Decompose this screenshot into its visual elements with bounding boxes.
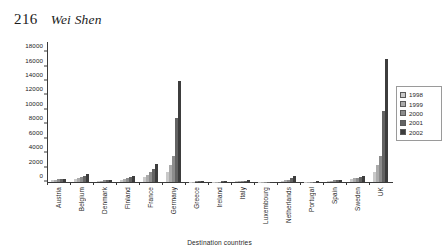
bar-clusters bbox=[47, 45, 392, 182]
bar-cluster bbox=[254, 45, 277, 182]
legend-swatch-icon bbox=[400, 110, 406, 116]
legend-item-2002[interactable]: 2002 bbox=[400, 128, 438, 137]
x-axis-label-slot: Austria bbox=[47, 185, 70, 243]
y-axis-tick-label: 16000 bbox=[25, 56, 47, 63]
legend-label: 2002 bbox=[409, 129, 423, 136]
x-axis-label-sweden: Sweden bbox=[354, 187, 361, 211]
bar-italy-2002[interactable] bbox=[247, 180, 250, 182]
bar-austria-2002[interactable] bbox=[63, 179, 66, 182]
plot-area: 0200040006000800010000120001400016000180… bbox=[47, 45, 392, 182]
bar-cluster bbox=[300, 45, 323, 182]
x-axis-label-finland: Finland bbox=[124, 187, 131, 209]
legend-swatch-icon bbox=[400, 92, 406, 98]
y-axis-tick-label: 18000 bbox=[25, 42, 47, 49]
x-axis-label-spain: Spain bbox=[331, 187, 338, 204]
bar-cluster bbox=[116, 45, 139, 182]
x-axis-label-slot: Germany bbox=[162, 185, 185, 243]
y-axis-tick-label: 12000 bbox=[25, 85, 47, 92]
legend-label: 2000 bbox=[409, 110, 423, 117]
legend-swatch-icon bbox=[400, 101, 406, 107]
bar-netherlands-2002[interactable] bbox=[293, 176, 296, 182]
x-axis-label-denmark: Denmark bbox=[101, 187, 108, 214]
bar-greece-2002[interactable] bbox=[201, 181, 204, 182]
bar-cluster bbox=[277, 45, 300, 182]
bar-france-2002[interactable] bbox=[155, 164, 158, 182]
x-axis-label-slot: Ireland bbox=[208, 185, 231, 243]
bar-uk-2002[interactable] bbox=[385, 59, 388, 182]
bar-spain-2002[interactable] bbox=[339, 180, 342, 182]
page-number: 216 bbox=[14, 11, 38, 28]
y-axis-tick-label: 14000 bbox=[25, 71, 47, 78]
bar-ireland-2002[interactable] bbox=[224, 181, 227, 182]
legend-item-2000[interactable]: 2000 bbox=[400, 109, 438, 118]
author-name: Wei Shen bbox=[51, 12, 102, 28]
legend-label: 1998 bbox=[409, 91, 423, 98]
x-axis-label-slot: Denmark bbox=[93, 185, 116, 243]
bar-germany-2002[interactable] bbox=[178, 81, 181, 182]
x-axis-label-slot: Sweden bbox=[346, 185, 369, 243]
x-axis-label-greece: Greece bbox=[193, 187, 200, 209]
bar-portugal-2002[interactable] bbox=[316, 181, 319, 182]
x-axis-label-slot: Greece bbox=[185, 185, 208, 243]
bar-cluster bbox=[139, 45, 162, 182]
bar-belgium-2002[interactable] bbox=[86, 174, 89, 182]
bar-cluster bbox=[70, 45, 93, 182]
x-axis-label-belgium: Belgium bbox=[78, 187, 85, 211]
y-axis-tick-label: 0 bbox=[39, 172, 47, 179]
x-axis-title: Destination countries bbox=[47, 239, 392, 246]
x-axis-label-slot: Luxembourg bbox=[254, 185, 277, 243]
x-axis-label-slot: France bbox=[139, 185, 162, 243]
bar-finland-2002[interactable] bbox=[132, 176, 135, 182]
x-axis-label-luxembourg: Luxembourg bbox=[262, 187, 269, 224]
y-axis-tick-label: 4000 bbox=[29, 143, 47, 150]
x-axis-labels: AustriaBelgiumDenmarkFinlandFranceGerman… bbox=[47, 185, 392, 243]
bar-cluster bbox=[185, 45, 208, 182]
bar-cluster bbox=[47, 45, 70, 182]
bar-luxembourg-2002[interactable] bbox=[270, 182, 273, 183]
bar-cluster bbox=[346, 45, 369, 182]
legend-item-1999[interactable]: 1999 bbox=[400, 99, 438, 108]
x-axis-label-france: France bbox=[147, 187, 154, 208]
chart-legend: 19981999200020012002 bbox=[396, 86, 442, 141]
x-axis-label-ireland: Ireland bbox=[216, 187, 223, 208]
x-axis-label-slot: UK bbox=[369, 185, 392, 243]
bar-sweden-2002[interactable] bbox=[362, 176, 365, 182]
legend-label: 1999 bbox=[409, 101, 423, 108]
legend-label: 2001 bbox=[409, 119, 423, 126]
x-axis-label-slot: Italy bbox=[231, 185, 254, 243]
x-axis-label-slot: Belgium bbox=[70, 185, 93, 243]
bar-cluster bbox=[208, 45, 231, 182]
legend-swatch-icon bbox=[400, 120, 406, 126]
x-axis-label-slot: Netherlands bbox=[277, 185, 300, 243]
y-axis-tick-label: 6000 bbox=[29, 128, 47, 135]
y-axis-tick-label: 8000 bbox=[29, 114, 47, 121]
x-axis-label-uk: UK bbox=[377, 187, 384, 196]
legend-item-1998[interactable]: 1998 bbox=[400, 90, 438, 99]
bar-cluster bbox=[369, 45, 392, 182]
x-axis-label-slot: Spain bbox=[323, 185, 346, 243]
x-axis-label-germany: Germany bbox=[170, 187, 177, 214]
y-axis-tick-label: 10000 bbox=[25, 99, 47, 106]
legend-swatch-icon bbox=[400, 129, 406, 135]
bar-cluster bbox=[231, 45, 254, 182]
page-header: 216 Wei Shen bbox=[14, 11, 102, 28]
x-axis-label-portugal: Portugal bbox=[308, 187, 315, 212]
bar-denmark-2002[interactable] bbox=[109, 180, 112, 182]
bar-cluster bbox=[162, 45, 185, 182]
bar-chart-figure: 0200040006000800010000120001400016000180… bbox=[0, 34, 448, 252]
bar-cluster bbox=[93, 45, 116, 182]
legend-item-2001[interactable]: 2001 bbox=[400, 118, 438, 127]
bar-cluster bbox=[323, 45, 346, 182]
x-axis-label-slot: Finland bbox=[116, 185, 139, 243]
x-axis-label-austria: Austria bbox=[55, 187, 62, 208]
y-axis-tick-label: 2000 bbox=[29, 157, 47, 164]
x-axis-label-slot: Portugal bbox=[300, 185, 323, 243]
x-axis-label-netherlands: Netherlands bbox=[285, 187, 292, 223]
x-axis-line bbox=[47, 182, 393, 183]
x-axis-label-italy: Italy bbox=[239, 187, 246, 199]
